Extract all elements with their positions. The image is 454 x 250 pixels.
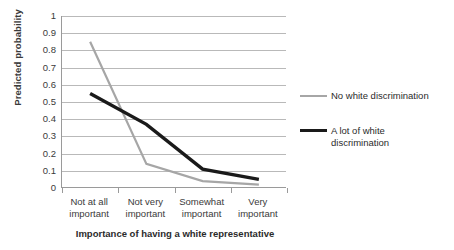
plot-area — [61, 16, 286, 188]
chart-container: Predicted probability 00.10.20.30.40.50.… — [0, 0, 454, 250]
x-axis-tick-label-line: important — [117, 208, 173, 220]
y-axis-tick-label: 0.1 — [43, 166, 56, 176]
x-axis-tick-label-line: important — [61, 208, 117, 220]
x-axis-tick-labels: Not at allimportantNot veryimportantSome… — [61, 196, 286, 224]
y-axis-tick-labels: 00.10.20.30.40.50.60.70.80.91 — [26, 10, 56, 194]
x-axis-tick-mark — [118, 188, 119, 193]
legend-label-line: A lot of white — [331, 125, 454, 138]
series-line — [90, 42, 259, 185]
legend-item[interactable]: No white discrimination — [300, 90, 454, 103]
x-axis-tick-mark — [231, 188, 232, 193]
y-axis-tick-label: 0.6 — [43, 80, 56, 90]
x-axis-tick-label: Not at allimportant — [61, 196, 117, 219]
y-axis-tick-label: 0.9 — [43, 28, 56, 38]
x-axis-tick-label-line: Not very — [117, 196, 173, 208]
legend-label-line: discrimination — [331, 137, 454, 150]
chart-legend: No white discriminationA lot of whitedis… — [300, 90, 454, 172]
x-axis-tick-mark — [62, 188, 63, 193]
x-axis-tick-label-line: Not at all — [61, 196, 117, 208]
x-axis-tick-mark — [287, 188, 288, 193]
y-axis-tick-label: 0.7 — [43, 63, 56, 73]
legend-item[interactable]: A lot of whitediscrimination — [300, 125, 454, 150]
x-axis-tick-label-line: Very — [230, 196, 286, 208]
series-lines — [62, 16, 287, 188]
y-axis-tick-label: 0.4 — [43, 114, 56, 124]
y-axis-tick-label: 0.5 — [43, 97, 56, 107]
x-axis-tick-label-line: important — [230, 208, 286, 220]
y-axis-tick-label: 0 — [51, 183, 56, 193]
series-line — [90, 93, 259, 179]
y-axis-tick-label: 0.8 — [43, 45, 56, 55]
x-axis-tick-label-line: Somewhat — [174, 196, 230, 208]
y-axis-tick-label: 0.3 — [43, 131, 56, 141]
y-axis-title: Predicted probability — [12, 0, 23, 133]
x-axis-tick-label: Somewhatimportant — [174, 196, 230, 219]
legend-label: A lot of whitediscrimination — [331, 125, 454, 150]
x-axis-tick-label: Veryimportant — [230, 196, 286, 219]
x-axis-tick-label: Not veryimportant — [117, 196, 173, 219]
x-axis-tick-label-line: important — [174, 208, 230, 220]
legend-label-line: No white discrimination — [331, 90, 454, 103]
x-axis-title: Importance of having a white representat… — [30, 228, 320, 239]
legend-swatch — [300, 95, 327, 97]
x-axis-tick-mark — [175, 188, 176, 193]
legend-label: No white discrimination — [331, 90, 454, 103]
y-axis-tick-label: 0.2 — [43, 149, 56, 159]
y-axis-tick-label: 1 — [51, 11, 56, 21]
legend-swatch — [300, 129, 327, 132]
